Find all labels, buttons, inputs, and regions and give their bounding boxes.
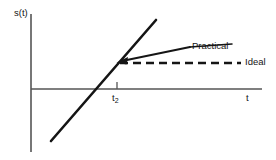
signal-response-diagram: s(t) t t2 Practical Ideal bbox=[0, 0, 276, 160]
plot-canvas bbox=[0, 0, 276, 160]
x-axis-label: t bbox=[246, 93, 249, 103]
y-axis-label: s(t) bbox=[14, 8, 28, 18]
tick-label-t2: t2 bbox=[112, 93, 119, 104]
ramp-line bbox=[51, 20, 156, 141]
axes-group bbox=[31, 14, 262, 152]
practical-curve-label: Practical bbox=[192, 41, 228, 51]
data-series-group bbox=[51, 20, 241, 141]
tick-label-subscript: 2 bbox=[115, 97, 119, 104]
ideal-curve-label: Ideal bbox=[245, 57, 266, 67]
